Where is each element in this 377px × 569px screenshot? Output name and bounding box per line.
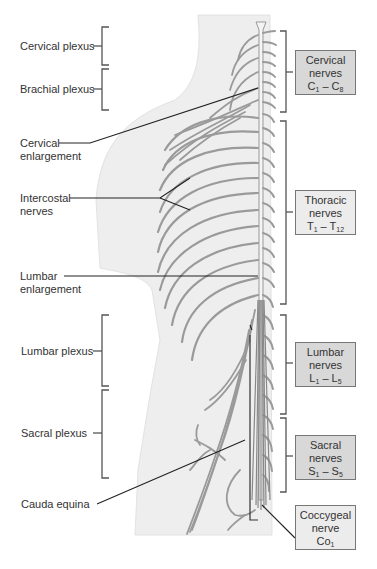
label-text: Cauda equina — [21, 498, 90, 510]
box-range: C1 – C8 — [296, 80, 355, 96]
box-cervical-nerves: Cervical nerves C1 – C8 — [295, 50, 356, 95]
label-sacral-plexus: Sacral plexus — [21, 427, 87, 440]
label-lumbar-plexus: Lumbar plexus — [21, 345, 93, 358]
box-coccygeal-nerve: Coccygeal nerve Co1 — [295, 505, 356, 550]
label-text: Lumbar plexus — [21, 345, 93, 357]
box-line2: nerves — [296, 67, 355, 80]
box-range: S1 – S5 — [296, 465, 355, 481]
label-cervical-plexus: Cervical plexus — [20, 40, 95, 53]
box-range: L1 – L5 — [296, 372, 355, 388]
box-line1: Cervical — [296, 54, 355, 67]
label-text: Cervical plexus — [20, 40, 95, 52]
label-text: enlargement — [20, 150, 81, 163]
label-text: Intercostal — [20, 192, 71, 205]
box-line2: nerves — [296, 452, 355, 465]
label-text: enlargement — [20, 283, 81, 296]
box-range: T1 – T12 — [296, 220, 355, 236]
box-line1: Sacral — [296, 439, 355, 452]
label-brachial-plexus: Brachial plexus — [20, 83, 95, 96]
right-brackets — [280, 31, 293, 492]
label-cervical-enlargement: Cervical enlargement — [20, 137, 81, 163]
box-line2: nerve — [296, 522, 355, 535]
box-line1: Lumbar — [296, 346, 355, 359]
spinal-nerves-diagram: Cervical plexus Brachial plexus Cervical… — [0, 0, 377, 569]
label-text: Lumbar — [20, 270, 81, 283]
box-sacral-nerves: Sacral nerves S1 – S5 — [295, 435, 356, 480]
label-intercostal-nerves: Intercostal nerves — [20, 192, 71, 218]
box-lumbar-nerves: Lumbar nerves L1 – L5 — [295, 342, 356, 387]
label-text: nerves — [20, 205, 71, 218]
label-lumbar-enlargement: Lumbar enlargement — [20, 270, 81, 296]
label-text: Sacral plexus — [21, 427, 87, 439]
label-cauda-equina: Cauda equina — [21, 498, 90, 511]
box-line1: Coccygeal — [296, 509, 355, 522]
box-range: Co1 — [296, 535, 355, 551]
box-thoracic-nerves: Thoracic nerves T1 – T12 — [295, 190, 356, 235]
label-text: Brachial plexus — [20, 83, 95, 95]
box-line2: nerves — [296, 207, 355, 220]
label-text: Cervical — [20, 137, 81, 150]
box-line1: Thoracic — [296, 194, 355, 207]
box-line2: nerves — [296, 359, 355, 372]
